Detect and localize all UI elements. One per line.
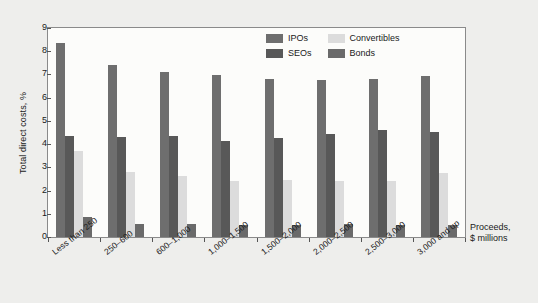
bar-group	[100, 28, 152, 237]
legend-swatch-icon	[266, 34, 283, 43]
bar-seos-0	[65, 136, 74, 237]
bar-seos-3	[221, 141, 230, 237]
bar-seos-5	[326, 134, 335, 237]
group-spacer	[152, 236, 160, 237]
legend-label: IPOs	[288, 33, 308, 43]
legend-item-seos[interactable]: SEOs	[266, 48, 312, 58]
bar-bonds-1	[135, 224, 144, 237]
x-axis-title-line2: $ millions	[470, 233, 511, 244]
y-tick-label: 3	[20, 162, 47, 171]
legend-item-ipos[interactable]: IPOs	[266, 33, 312, 43]
group-spacer	[48, 236, 56, 237]
bar-group	[257, 28, 309, 237]
y-tick-label: 1	[20, 209, 47, 218]
y-tick-label: 4	[20, 139, 47, 148]
bar-seos-1	[117, 137, 126, 237]
bar-groups	[48, 28, 465, 237]
y-tick-label: 8	[20, 46, 47, 55]
group-spacer	[361, 236, 369, 237]
legend-swatch-icon	[328, 34, 345, 43]
group-spacer	[257, 236, 265, 237]
group-spacer	[413, 236, 421, 237]
bar-ipos-6	[369, 79, 378, 237]
y-tick-label: 6	[20, 93, 47, 102]
bar-seos-4	[274, 138, 283, 237]
x-axis-title-line1: Proceeds,	[470, 222, 511, 233]
bar-convertibles-1	[126, 172, 135, 237]
group-spacer	[204, 236, 212, 237]
bar-ipos-2	[160, 72, 169, 237]
bar-group	[361, 28, 413, 237]
bar-ipos-7	[421, 76, 430, 237]
bar-group	[152, 28, 204, 237]
y-tick-label: 7	[20, 69, 47, 78]
chart-figure: Total direct costs, % 9876543210 Less th…	[0, 0, 538, 303]
bar-ipos-1	[108, 65, 117, 237]
y-tick-label: 9	[20, 23, 47, 32]
chart-legend: IPOsConvertiblesSEOsBonds	[266, 33, 400, 58]
legend-label: SEOs	[288, 48, 312, 58]
y-tick-label: 0	[20, 232, 47, 241]
group-spacer	[100, 236, 108, 237]
y-axis-title: Total direct costs, %	[18, 63, 28, 203]
y-tick-label: 2	[20, 186, 47, 195]
x-axis-title: Proceeds, $ millions	[470, 222, 511, 244]
bar-ipos-3	[212, 75, 221, 237]
bar-group	[48, 28, 100, 237]
bar-ipos-0	[56, 43, 65, 237]
x-tick-mark	[465, 238, 466, 242]
bar-seos-6	[378, 130, 387, 237]
legend-item-bonds[interactable]: Bonds	[328, 48, 400, 58]
y-tick-label: 5	[20, 116, 47, 125]
x-axis-labels: Less than 250250–600600–1,0001,000–1,500…	[48, 241, 465, 303]
bar-ipos-5	[317, 80, 326, 237]
legend-item-convertibles[interactable]: Convertibles	[328, 33, 400, 43]
legend-label: Convertibles	[350, 33, 400, 43]
bar-group	[204, 28, 256, 237]
bar-group	[309, 28, 361, 237]
legend-label: Bonds	[350, 48, 376, 58]
legend-swatch-icon	[266, 49, 283, 58]
bar-group	[413, 28, 465, 237]
group-spacer	[309, 236, 317, 237]
legend-swatch-icon	[328, 49, 345, 58]
bar-seos-7	[430, 132, 439, 237]
bar-seos-2	[169, 136, 178, 237]
bar-ipos-4	[265, 79, 274, 237]
